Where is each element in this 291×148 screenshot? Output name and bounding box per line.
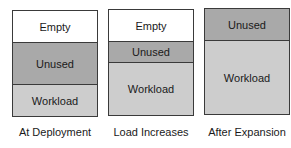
segment-empty: Empty (13, 11, 97, 43)
segment-unused: Unused (109, 42, 193, 63)
segment-workload: Workload (109, 63, 193, 115)
segment-empty: Empty (109, 10, 193, 42)
segment-label: Workload (224, 72, 270, 84)
segment-label: Workload (32, 95, 78, 107)
segment-label: Workload (128, 83, 174, 95)
caption-load-increases: Load Increases (104, 126, 198, 138)
segment-label: Empty (39, 21, 70, 33)
segment-label: Unused (132, 46, 170, 58)
stack-at-deployment: Empty Unused Workload (12, 10, 98, 117)
segment-workload: Workload (205, 41, 289, 114)
segment-label: Unused (36, 58, 74, 70)
segment-label: Unused (228, 19, 266, 31)
stack-load-increases: Empty Unused Workload (108, 9, 194, 116)
segment-workload: Workload (13, 85, 97, 116)
caption-after-expansion: After Expansion (200, 126, 291, 138)
segment-unused: Unused (13, 43, 97, 85)
caption-at-deployment: At Deployment (12, 126, 98, 138)
segment-label: Empty (135, 20, 166, 32)
stack-after-expansion: Unused Workload (204, 8, 290, 115)
segment-unused: Unused (205, 9, 289, 41)
